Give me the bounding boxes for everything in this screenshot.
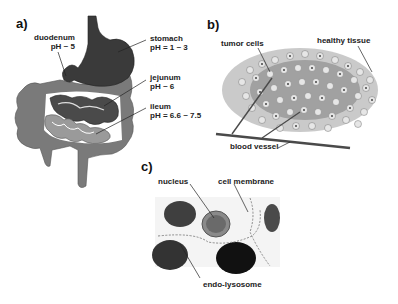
tumor-cluster [222,48,378,132]
label-endo-lysosome: endo-lysosome [203,280,262,289]
label-blood-vessel: blood vessel [230,142,278,151]
label-nucleus: nucleus [158,177,188,186]
label-cell-membrane: cell membrane [218,177,274,186]
micrograph [152,197,280,274]
label-healthy-tissue: healthy tissue [317,36,370,45]
label-duodenum: duodenum pH ~ 5 [34,33,75,51]
label-stomach: stomach pH = 1 ~ 3 [150,34,188,52]
label-jejunum: jejunum pH ~ 6 [150,73,181,91]
label-tumor-cells: tumor cells [221,39,264,48]
stomach-shape [62,16,134,86]
label-ileum: ileum pH = 6.6 ~ 7.5 [150,102,201,120]
